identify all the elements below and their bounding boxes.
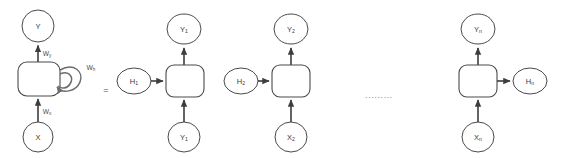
weight-input-label: Wx xyxy=(43,108,52,116)
rnn-unfolding-diagram: Y Wy Wh Wx xyxy=(0,0,564,158)
weight-output-label: Wy xyxy=(43,50,52,58)
folded-rnn-group: Y Wy Wh Wx xyxy=(18,10,96,152)
ellipsis-separator: ......... xyxy=(365,90,393,100)
folded-rnn-cell xyxy=(18,62,60,96)
timestep-1-group: Y1 H1 Y1 xyxy=(117,14,204,152)
timestep-1-cell xyxy=(166,65,204,97)
timestep-n-group: Yn Hn Xn xyxy=(459,14,547,152)
timestep-n-cell xyxy=(459,65,497,97)
timestep-2-group: Y2 H2 X2 xyxy=(224,14,310,152)
folded-output-node-label: Y xyxy=(35,21,40,30)
equals-sign: = xyxy=(103,85,108,95)
folded-input-node-label: X xyxy=(35,132,40,141)
weight-recurrent-label: Wh xyxy=(87,64,96,72)
timestep-2-cell xyxy=(272,65,310,97)
rnn-diagram-canvas: Y Wy Wh Wx xyxy=(0,0,564,158)
